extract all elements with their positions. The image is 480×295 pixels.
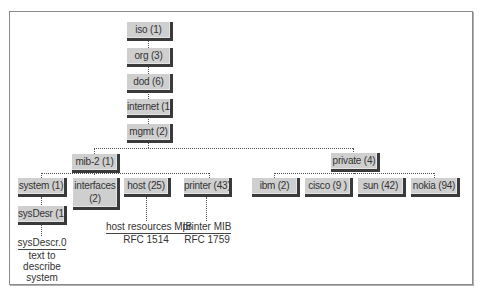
connector [148, 66, 149, 74]
node-host: host (25) [124, 178, 171, 197]
node-interfaces-line1: interfaces [74, 180, 115, 191]
node-mgmt: mgmt (2) [127, 124, 173, 143]
node-iso: iso (1) [127, 22, 173, 41]
connector [148, 92, 149, 99]
annotation-sysdescr-line3: system [26, 272, 58, 283]
node-private: private (4) [331, 153, 380, 172]
connector [146, 197, 147, 221]
connector [94, 148, 353, 149]
node-mib-2: mib-2 (1) [72, 154, 120, 173]
node-ibm: ibm (2) [252, 178, 300, 197]
connector [41, 173, 209, 174]
annotation-printer: printer MIB RFC 1759 [182, 221, 232, 245]
annotation-printer-sub: RFC 1759 [184, 234, 230, 245]
connector [148, 40, 149, 48]
node-interfaces-line2: (2) [89, 193, 101, 204]
node-sun: sun (42) [358, 178, 406, 197]
annotation-sysdescr: sysDescr.0 text to describe system [14, 237, 70, 283]
annotation-sysdescr-line2: describe [23, 261, 61, 272]
annotation-sysdescr-title: sysDescr.0 [18, 237, 67, 250]
connector [41, 225, 42, 236]
node-printer: printer (43) [184, 178, 232, 197]
node-org: org (3) [127, 48, 173, 67]
node-system: system (1) [18, 178, 67, 197]
annotation-printer-title: printer MIB [183, 221, 232, 234]
annotation-sysdescr-line1: text to [28, 250, 55, 261]
node-cisco: cisco (9 ) [305, 178, 353, 197]
node-internet: internet (1) [127, 99, 173, 118]
node-nokia: nokia (94) [411, 178, 460, 197]
annotation-host: host resources MIB RFC 1514 [106, 221, 186, 245]
annotation-host-sub: RFC 1514 [123, 234, 169, 245]
node-dod: dod (6) [127, 74, 173, 93]
node-interfaces: interfaces (2) [73, 178, 120, 210]
node-sysdesr: sysDesr (1) [18, 206, 67, 225]
connector [148, 117, 149, 124]
annotation-host-title: host resources MIB [106, 221, 192, 234]
connector [206, 197, 207, 221]
